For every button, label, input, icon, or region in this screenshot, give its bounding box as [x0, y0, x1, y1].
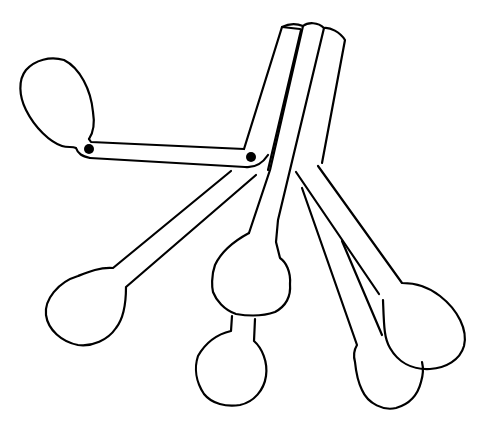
- spoon-right-lower: [302, 188, 423, 409]
- rivet-left: [84, 144, 94, 154]
- spoon-middle: [212, 233, 290, 315]
- line-drawing: [0, 0, 484, 429]
- spoon-lower-left: [46, 171, 256, 345]
- rivet-right: [246, 152, 256, 162]
- spoon-top-left: [20, 58, 268, 167]
- spoon-right-upper: [296, 166, 465, 369]
- measuring-spoons-drawing: [0, 0, 484, 429]
- spoon-bottom: [196, 316, 266, 406]
- handles-top: [244, 23, 345, 242]
